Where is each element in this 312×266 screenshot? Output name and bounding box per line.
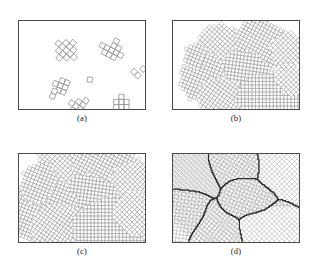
panel-c-caption: (c) bbox=[18, 246, 146, 256]
panel-d-caption: (d) bbox=[172, 246, 300, 256]
panel-d-frame bbox=[172, 153, 300, 243]
panel-c-frame bbox=[18, 153, 146, 243]
panel-b-frame bbox=[172, 20, 300, 110]
panel-a: (a) bbox=[18, 20, 146, 110]
panel-a-drawing bbox=[19, 21, 145, 109]
figure-container: (a) (b) (c) (d) bbox=[0, 0, 312, 266]
panel-b-drawing bbox=[173, 21, 299, 109]
panel-b: (b) bbox=[172, 20, 300, 110]
panel-d: (d) bbox=[172, 153, 300, 243]
panel-d-drawing bbox=[173, 154, 299, 242]
panel-c: (c) bbox=[18, 153, 146, 243]
panel-b-caption: (b) bbox=[172, 113, 300, 123]
panel-c-drawing bbox=[19, 154, 145, 242]
panel-a-caption: (a) bbox=[18, 113, 146, 123]
panel-a-frame bbox=[18, 20, 146, 110]
